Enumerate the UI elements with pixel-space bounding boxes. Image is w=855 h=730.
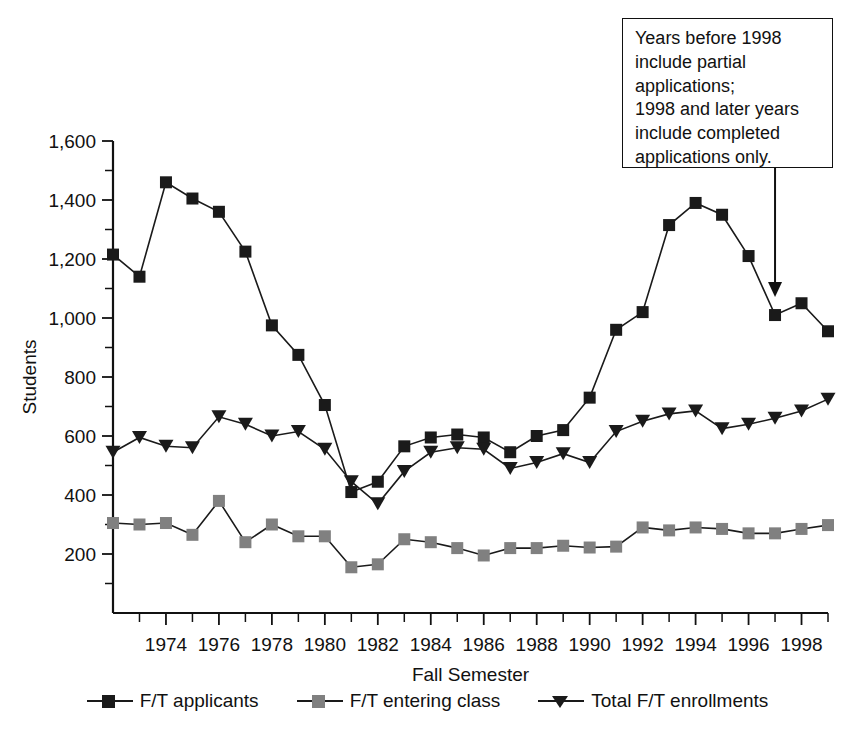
chart-legend: F/T applicants F/T entering class Total … (0, 686, 855, 716)
series-f-t-applicants (107, 176, 834, 498)
legend-swatch-square-gray (297, 692, 343, 710)
x-axis-title: Fall Semester (412, 664, 530, 685)
legend-label-total-ft-enrollments: Total F/T enrollments (591, 690, 768, 712)
series-line (113, 182, 828, 492)
data-series-layer (106, 176, 836, 573)
y-axis-tick-labels: 2004006008001,0001,2001,4001,600 (48, 131, 96, 565)
data-point-marker (743, 250, 755, 262)
data-point-marker (796, 297, 808, 309)
data-point-marker (451, 542, 463, 554)
data-point-marker (319, 530, 331, 542)
x-tick-label: 1990 (569, 634, 611, 655)
data-point-marker (584, 542, 596, 554)
data-point-marker (266, 519, 278, 531)
data-point-marker (557, 540, 569, 552)
y-tick-label: 800 (64, 367, 96, 388)
series-f-t-entering-class (107, 495, 834, 573)
data-point-marker (372, 476, 384, 488)
data-point-marker (132, 431, 147, 444)
data-point-marker (690, 521, 702, 533)
data-point-marker (531, 430, 543, 442)
y-tick-label: 600 (64, 426, 96, 447)
data-point-marker (133, 519, 145, 531)
legend-item-ft-entering-class[interactable]: F/T entering class (297, 690, 501, 712)
y-tick-label: 1,200 (48, 249, 96, 270)
x-tick-label: 1996 (727, 634, 769, 655)
data-point-marker (637, 521, 649, 533)
annotation-note: Years before 1998 include partial applic… (622, 18, 833, 168)
x-tick-label: 1974 (145, 634, 188, 655)
arrow-head (768, 282, 782, 297)
data-point-marker (821, 393, 836, 406)
data-point-marker (425, 431, 437, 443)
data-point-marker (398, 533, 410, 545)
data-point-marker (663, 524, 675, 536)
y-axis-title: Students (19, 340, 40, 415)
data-point-marker (635, 415, 650, 428)
data-point-marker (610, 324, 622, 336)
data-point-marker (266, 319, 278, 331)
data-point-marker (743, 527, 755, 539)
data-point-marker (264, 430, 279, 443)
data-point-marker (345, 561, 357, 573)
legend-item-total-ft-enrollments[interactable]: Total F/T enrollments (538, 690, 768, 712)
data-point-marker (557, 424, 569, 436)
x-tick-label: 1986 (463, 634, 505, 655)
data-point-marker (716, 209, 728, 221)
data-point-marker (794, 404, 809, 417)
data-point-marker (796, 523, 808, 535)
data-point-marker (133, 271, 145, 283)
legend-label-ft-entering-class: F/T entering class (350, 690, 501, 712)
data-point-marker (529, 456, 544, 469)
x-axis-tick-labels: 1974197619781980198219841986198819901992… (145, 634, 823, 655)
x-tick-label: 1984 (410, 634, 453, 655)
x-tick-label: 1994 (674, 634, 717, 655)
data-point-marker (769, 309, 781, 321)
data-point-marker (504, 542, 516, 554)
data-point-marker (372, 558, 384, 570)
y-tick-label: 400 (64, 485, 96, 506)
data-point-marker (637, 306, 649, 318)
x-tick-label: 1988 (516, 634, 558, 655)
data-point-marker (186, 529, 198, 541)
data-point-marker (478, 431, 490, 443)
data-point-marker (478, 549, 490, 561)
data-point-marker (503, 462, 518, 475)
x-tick-label: 1992 (621, 634, 663, 655)
data-point-marker (317, 443, 332, 456)
data-point-marker (690, 197, 702, 209)
legend-item-ft-applicants[interactable]: F/T applicants (87, 690, 259, 712)
x-tick-label: 1978 (251, 634, 293, 655)
data-point-marker (582, 456, 597, 469)
data-point-marker (663, 219, 675, 231)
data-point-marker (370, 497, 385, 510)
data-point-marker (609, 425, 624, 438)
data-point-marker (106, 446, 121, 459)
data-point-marker (292, 349, 304, 361)
data-point-marker (186, 193, 198, 205)
data-point-marker (451, 429, 463, 441)
data-point-marker (715, 422, 730, 435)
legend-label-ft-applicants: F/T applicants (140, 690, 259, 712)
data-point-marker (211, 410, 226, 423)
series-total-f-t-enrollments (106, 393, 836, 511)
data-point-marker (107, 249, 119, 261)
data-point-marker (556, 447, 571, 460)
data-point-marker (160, 176, 172, 188)
y-tick-label: 1,600 (48, 131, 96, 152)
data-point-marker (291, 425, 306, 438)
y-tick-label: 1,000 (48, 308, 96, 329)
y-tick-label: 1,400 (48, 190, 96, 211)
data-point-marker (822, 519, 834, 531)
x-tick-label: 1982 (357, 634, 399, 655)
data-point-marker (398, 440, 410, 452)
data-point-marker (292, 530, 304, 542)
data-point-marker (822, 325, 834, 337)
data-point-marker (397, 465, 412, 478)
data-point-marker (504, 446, 516, 458)
data-point-marker (768, 412, 783, 425)
x-tick-label: 1976 (198, 634, 240, 655)
data-point-marker (319, 399, 331, 411)
data-point-marker (531, 542, 543, 554)
data-point-marker (610, 541, 622, 553)
